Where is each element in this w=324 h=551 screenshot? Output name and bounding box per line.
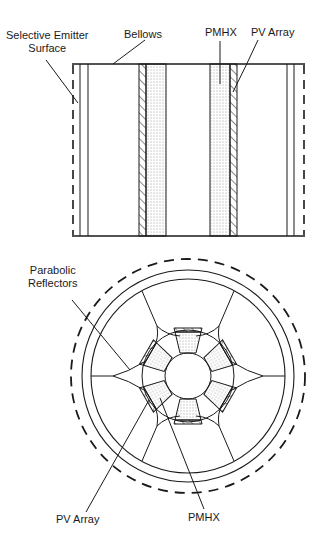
side-view (46, 40, 305, 236)
label-line: Reflectors (28, 277, 78, 290)
label-selective-emitter: Selective Emitter Surface (6, 29, 89, 55)
pmhx-strip-left (146, 64, 166, 236)
pv-strip-right (230, 64, 237, 236)
label-pmhx-bottom: PMHX (188, 511, 220, 524)
pmhx-strip-right (210, 64, 230, 236)
inner-wall-circle (91, 279, 285, 473)
parabolic-reflectors (91, 291, 285, 461)
core-circle (165, 353, 211, 399)
label-pmhx-top: PMHX (205, 26, 237, 39)
pv-strip-left (139, 64, 146, 236)
leader-pv-bottom (86, 400, 149, 512)
label-line: Surface (6, 42, 89, 55)
label-bellows: Bellows (124, 28, 162, 41)
label-line: Parabolic (28, 264, 78, 277)
end-view (71, 259, 305, 493)
label-pv-array-bottom: PV Array (56, 513, 99, 526)
leader-parabolic (72, 300, 130, 370)
label-pv-array-top: PV Array (251, 26, 294, 39)
pmhx-segments (139, 328, 236, 424)
leader-bellows (113, 40, 145, 64)
label-line: Selective Emitter (6, 29, 89, 42)
label-parabolic-reflectors: Parabolic Reflectors (28, 264, 78, 290)
